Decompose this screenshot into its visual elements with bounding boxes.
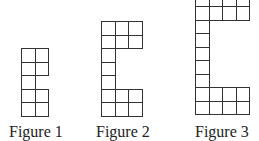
grid-square bbox=[236, 6, 251, 21]
grid-square bbox=[35, 62, 50, 77]
grid-square bbox=[35, 102, 50, 117]
figure-1-label: Figure 1 bbox=[9, 124, 63, 140]
figure-3-label: Figure 3 bbox=[195, 124, 249, 140]
grid-square bbox=[128, 35, 143, 50]
grid-square bbox=[128, 102, 143, 117]
grid-square bbox=[236, 101, 251, 116]
figure-2-label: Figure 2 bbox=[96, 124, 150, 140]
